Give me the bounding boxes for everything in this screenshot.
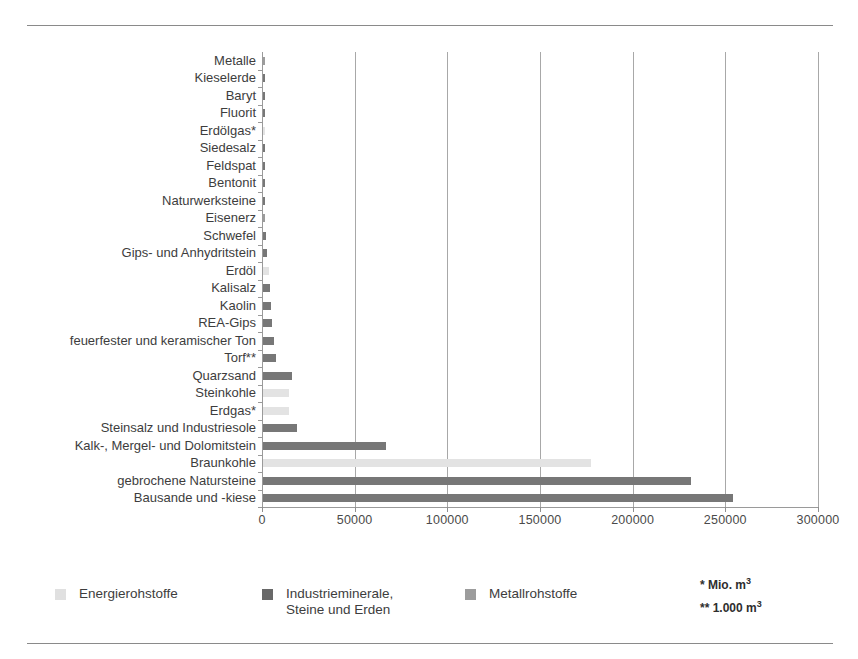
bar bbox=[263, 337, 274, 345]
y-axis-label-6: Feldspat bbox=[0, 159, 256, 172]
bar bbox=[263, 302, 271, 310]
y-axis-label-7: Bentonit bbox=[0, 176, 256, 189]
legend-swatch-icon bbox=[262, 589, 273, 600]
bar bbox=[263, 109, 265, 117]
y-tick-mark bbox=[258, 280, 262, 281]
x-tick-mark-250000 bbox=[725, 507, 726, 512]
bar bbox=[263, 249, 267, 257]
bar bbox=[263, 424, 297, 432]
y-tick-mark bbox=[258, 367, 262, 368]
bar bbox=[263, 319, 272, 327]
y-axis-label-18: Quarzsand bbox=[0, 369, 256, 382]
x-tick-mark-50000 bbox=[355, 507, 356, 512]
y-tick-mark bbox=[258, 262, 262, 263]
bar bbox=[263, 92, 265, 100]
bar bbox=[263, 442, 386, 450]
figure-container: 050000100000150000200000250000300000 Met… bbox=[0, 0, 858, 659]
footnote-1: ** 1.000 m3 bbox=[700, 595, 850, 618]
x-tick-label-250000: 250000 bbox=[685, 513, 765, 527]
legend-item[interactable]: Energierohstoffe bbox=[55, 578, 178, 602]
y-tick-mark bbox=[258, 297, 262, 298]
gridline-300000 bbox=[818, 52, 819, 507]
y-tick-mark bbox=[258, 192, 262, 193]
x-tick-label-100000: 100000 bbox=[407, 513, 487, 527]
y-axis-label-12: Erdöl bbox=[0, 264, 256, 277]
y-tick-mark bbox=[258, 87, 262, 88]
legend-label: Metallrohstoffe bbox=[489, 578, 577, 602]
y-axis-label-2: Baryt bbox=[0, 89, 256, 102]
y-tick-mark bbox=[258, 70, 262, 71]
bar bbox=[263, 354, 276, 362]
x-tick-label-50000: 50000 bbox=[315, 513, 395, 527]
y-axis-label-14: Kaolin bbox=[0, 299, 256, 312]
y-tick-mark bbox=[258, 122, 262, 123]
y-tick-mark bbox=[258, 402, 262, 403]
bar bbox=[263, 407, 289, 415]
y-tick-mark bbox=[258, 455, 262, 456]
y-axis-label-5: Siedesalz bbox=[0, 141, 256, 154]
legend-item[interactable]: Industrieminerale, Steine und Erden bbox=[262, 578, 393, 618]
y-axis-label-17: Torf** bbox=[0, 351, 256, 364]
legend-item[interactable]: Metallrohstoffe bbox=[465, 578, 577, 602]
y-tick-mark bbox=[258, 227, 262, 228]
y-tick-mark bbox=[258, 175, 262, 176]
bar bbox=[263, 74, 265, 82]
y-tick-mark bbox=[258, 420, 262, 421]
bar bbox=[263, 57, 265, 65]
x-tick-mark-100000 bbox=[447, 507, 448, 512]
y-tick-mark bbox=[258, 350, 262, 351]
x-tick-label-200000: 200000 bbox=[593, 513, 673, 527]
bar bbox=[263, 389, 289, 397]
legend-label: Energierohstoffe bbox=[79, 578, 178, 602]
y-axis-label-4: Erdölgas* bbox=[0, 124, 256, 137]
legend-swatch-icon bbox=[55, 589, 66, 600]
y-axis-label-9: Eisenerz bbox=[0, 211, 256, 224]
footnotes: * Mio. m3** 1.000 m3 bbox=[700, 572, 850, 618]
legend: EnergierohstoffeIndustrieminerale, Stein… bbox=[55, 578, 615, 626]
y-tick-mark bbox=[258, 315, 262, 316]
y-axis-label-16: feuerfester und keramischer Ton bbox=[0, 334, 256, 347]
y-axis-label-23: Braunkohle bbox=[0, 456, 256, 469]
bar bbox=[263, 372, 292, 380]
y-axis-label-3: Fluorit bbox=[0, 106, 256, 119]
y-tick-mark bbox=[258, 105, 262, 106]
y-axis-label-11: Gips- und Anhydritstein bbox=[0, 246, 256, 259]
x-tick-mark-150000 bbox=[540, 507, 541, 512]
y-axis-label-22: Kalk-, Mergel- und Dolomitstein bbox=[0, 439, 256, 452]
y-tick-mark bbox=[258, 157, 262, 158]
x-tick-mark-200000 bbox=[633, 507, 634, 512]
y-tick-mark bbox=[258, 472, 262, 473]
y-axis-label-24: gebrochene Natursteine bbox=[0, 474, 256, 487]
y-axis-label-10: Schwefel bbox=[0, 229, 256, 242]
x-tick-label-0: 0 bbox=[222, 513, 302, 527]
y-axis-label-13: Kalisalz bbox=[0, 281, 256, 294]
y-axis-label-20: Erdgas* bbox=[0, 404, 256, 417]
bar bbox=[263, 459, 591, 467]
top-divider-rule bbox=[27, 25, 833, 26]
y-tick-mark bbox=[258, 437, 262, 438]
bar bbox=[263, 214, 265, 222]
y-tick-mark bbox=[258, 385, 262, 386]
bar bbox=[263, 162, 265, 170]
x-tick-mark-0 bbox=[262, 507, 263, 512]
bar bbox=[263, 197, 265, 205]
y-axis-label-21: Steinsalz und Industriesole bbox=[0, 421, 256, 434]
y-axis-label-25: Bausande und -kiese bbox=[0, 491, 256, 504]
bar bbox=[263, 232, 266, 240]
bar bbox=[263, 284, 270, 292]
x-tick-label-300000: 300000 bbox=[778, 513, 858, 527]
y-tick-mark bbox=[258, 245, 262, 246]
y-axis-label-8: Naturwerksteine bbox=[0, 194, 256, 207]
y-axis-label-15: REA-Gips bbox=[0, 316, 256, 329]
y-axis-label-1: Kieselerde bbox=[0, 71, 256, 84]
plot-area bbox=[262, 52, 818, 507]
x-tick-mark-300000 bbox=[818, 507, 819, 512]
y-axis-label-0: Metalle bbox=[0, 54, 256, 67]
legend-label: Industrieminerale, Steine und Erden bbox=[286, 578, 393, 618]
footnote-0: * Mio. m3 bbox=[700, 572, 850, 595]
y-tick-mark bbox=[258, 507, 262, 508]
bar bbox=[263, 267, 269, 275]
y-axis-label-19: Steinkohle bbox=[0, 386, 256, 399]
y-tick-mark bbox=[258, 332, 262, 333]
x-tick-label-150000: 150000 bbox=[500, 513, 580, 527]
